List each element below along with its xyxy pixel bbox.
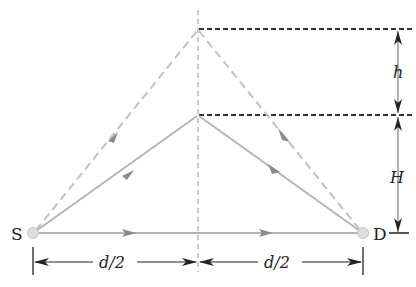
- source-label: S: [11, 224, 23, 244]
- source-node: [28, 228, 39, 239]
- right-half-label: d/2: [264, 253, 290, 272]
- upper-ray-up: [36, 31, 197, 230]
- detector-label: D: [373, 224, 387, 244]
- upper-ray-arrowhead-right: [278, 128, 290, 142]
- left-half-label: d/2: [99, 253, 125, 272]
- lower-ray-arrowhead-left: [122, 170, 134, 180]
- h-label: h: [393, 63, 403, 82]
- H-label: H: [389, 168, 405, 187]
- wave-path-diagram: S D h H d/2 d/2: [0, 0, 416, 287]
- detector-node: [358, 228, 369, 239]
- lower-ray-up: [36, 116, 197, 231]
- lower-ray-down: [199, 116, 360, 231]
